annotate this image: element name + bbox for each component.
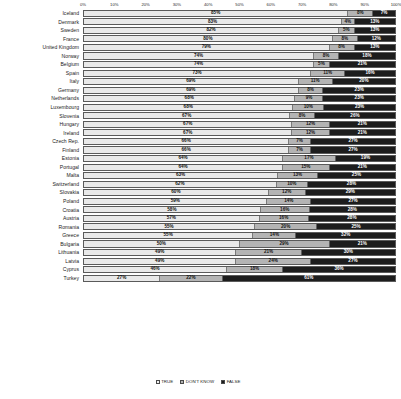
chart-row: Latvia49%24%27% — [0, 257, 396, 266]
segment-value: 8% — [338, 45, 345, 50]
segment-false: 28% — [308, 182, 395, 187]
stacked-bar: 74%8%18% — [83, 52, 396, 59]
segment-value: 69% — [186, 88, 195, 93]
segment-true: 69% — [84, 88, 299, 93]
segment-value: 27% — [117, 276, 126, 281]
legend-item-false[interactable]: FALSE — [221, 379, 240, 384]
segment-true: 67% — [84, 122, 292, 127]
segment-false: 16% — [345, 71, 395, 76]
segment-value: 5% — [318, 62, 325, 67]
segment-value: 23% — [355, 88, 364, 93]
segment-value: 24% — [269, 259, 278, 264]
segment-value: 26% — [350, 114, 359, 119]
legend-label: DON'T KNOW — [186, 379, 214, 384]
row-label-latvia: Latvia — [0, 257, 83, 266]
legend-swatch-icon — [156, 380, 160, 384]
chart-row: Sweden82%5%13% — [0, 26, 396, 35]
segment-value: 7% — [296, 139, 303, 144]
segment-value: 10% — [287, 182, 296, 187]
segment-false: 28% — [310, 207, 395, 212]
segment-value: 19% — [361, 156, 370, 161]
row-label-turkey: Turkey — [0, 274, 83, 283]
chart-row: Norway74%8%18% — [0, 52, 396, 61]
segment-dont-know: 11% — [299, 79, 333, 84]
segment-value: 66% — [182, 148, 191, 153]
segment-true: 68% — [84, 96, 295, 101]
segment-value: 12% — [282, 190, 291, 195]
stacked-bar-chart: Iceland85%8%7%Denmark83%4%13%Sweden82%5%… — [0, 1, 396, 399]
chart-row: Finland66%7%27% — [0, 146, 396, 155]
segment-value: 36% — [334, 267, 343, 272]
segment-value: 58% — [167, 208, 176, 213]
row-label-finland: Finland — [0, 146, 83, 155]
segment-value: 27% — [348, 199, 357, 204]
chart-row: Lithuania49%21%30% — [0, 248, 396, 257]
x-axis-tick: 80% — [329, 2, 337, 7]
stacked-bar: 49%21%30% — [83, 249, 396, 256]
row-label-portugal: Portugal — [0, 163, 83, 172]
segment-value: 50% — [157, 242, 166, 247]
x-axis-tick: 40% — [204, 2, 212, 7]
row-label-romania: Romania — [0, 223, 83, 232]
segment-value: 22% — [186, 276, 195, 281]
segment-value: 55% — [164, 225, 173, 230]
segment-value: 5% — [343, 28, 350, 33]
segment-dont-know: 12% — [269, 190, 306, 195]
segment-value: 46% — [150, 267, 159, 272]
segment-value: 29% — [346, 190, 355, 195]
segment-value: 27% — [348, 259, 357, 264]
row-label-netherlands: Netherlands — [0, 94, 83, 103]
segment-true: 68% — [84, 105, 293, 110]
chart-row: Hungary67%12%21% — [0, 120, 396, 129]
chart-row: Spain73%11%16% — [0, 69, 396, 78]
segment-value: 59% — [171, 199, 180, 204]
x-axis: 0%10%20%30%40%50%60%70%80%90%100% — [83, 1, 396, 12]
segment-value: 64% — [178, 165, 187, 170]
chart-row: Slovenia67%8%26% — [0, 112, 396, 121]
segment-value: 69% — [186, 79, 195, 84]
row-label-france: France — [0, 35, 83, 44]
x-axis-tick: 70% — [298, 2, 306, 7]
segment-dont-know: 11% — [311, 71, 345, 76]
row-label-italy: Italy — [0, 77, 83, 86]
stacked-bar: 55%14%32% — [83, 232, 396, 239]
chart-row: Turkey27%22%61% — [0, 274, 396, 283]
row-label-spain: Spain — [0, 69, 83, 78]
segment-value: 8% — [299, 114, 306, 119]
x-axis-tick: 0% — [80, 2, 86, 7]
segment-value: 23% — [355, 105, 364, 110]
x-axis-tick: 20% — [141, 2, 149, 7]
segment-value: 9% — [306, 96, 313, 101]
chart-row: Estonia64%17%19% — [0, 154, 396, 163]
stacked-bar: 64%15%21% — [83, 164, 396, 171]
stacked-bar: 80%8%12% — [83, 35, 396, 42]
segment-true: 60% — [84, 190, 269, 195]
segment-true: 74% — [84, 53, 314, 58]
segment-true: 27% — [84, 276, 160, 281]
segment-false: 21% — [330, 165, 395, 170]
stacked-bar: 64%17%19% — [83, 155, 396, 162]
segment-false: 13% — [355, 45, 395, 50]
segment-value: 7% — [296, 148, 303, 153]
segment-value: 27% — [348, 139, 357, 144]
segment-true: 79% — [84, 45, 330, 50]
segment-dont-know: 9% — [295, 96, 323, 101]
chart-row: Switzerland62%10%28% — [0, 180, 396, 189]
segment-value: 12% — [306, 131, 315, 136]
segment-dont-know: 17% — [283, 156, 336, 161]
row-label-bulgaria: Bulgaria — [0, 240, 83, 249]
segment-value: 28% — [347, 182, 356, 187]
row-label-greece: Greece — [0, 231, 83, 240]
legend-item-dont-know[interactable]: DON'T KNOW — [180, 379, 214, 384]
chart-row: Denmark83%4%13% — [0, 18, 396, 27]
segment-true: 63% — [84, 173, 278, 178]
segment-true: 57% — [84, 216, 260, 221]
segment-dont-know: 8% — [314, 53, 339, 58]
legend-item-true[interactable]: TRUE — [156, 379, 174, 384]
segment-true: 49% — [84, 259, 236, 264]
stacked-bar: 49%24%27% — [83, 258, 396, 265]
segment-false: 36% — [283, 267, 395, 272]
stacked-bar: 73%11%16% — [83, 70, 396, 77]
segment-value: 25% — [351, 225, 360, 230]
x-axis-tick: 60% — [267, 2, 275, 7]
